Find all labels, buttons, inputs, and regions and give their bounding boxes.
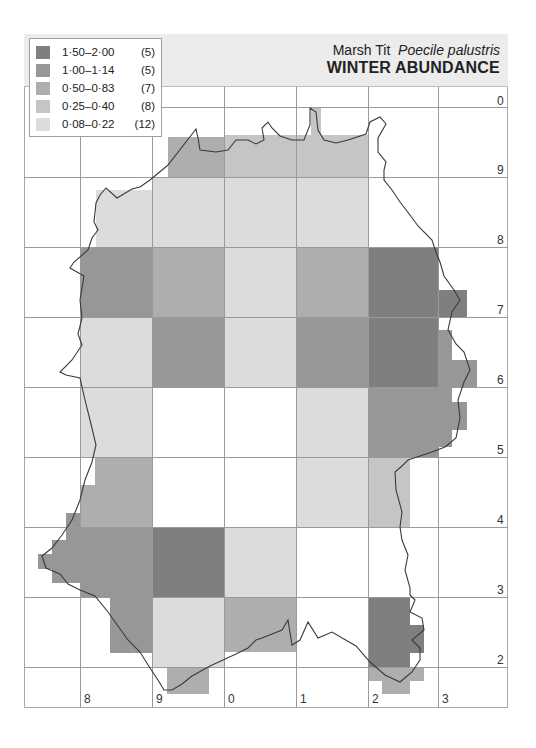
row-label: 6 bbox=[497, 373, 504, 387]
legend-count: (7) bbox=[131, 82, 155, 94]
legend-item: 0·50–0·83 (7) bbox=[36, 79, 155, 97]
legend-range: 0·50–0·83 bbox=[62, 82, 131, 94]
map-subtitle: WINTER ABUNDANCE bbox=[327, 59, 500, 77]
row-label: 0 bbox=[497, 94, 504, 108]
legend-swatch bbox=[36, 46, 50, 59]
legend-count: (5) bbox=[131, 46, 155, 58]
scientific-name: Poecile palustris bbox=[398, 42, 500, 58]
legend-range: 1·50–2·00 bbox=[62, 46, 131, 58]
legend-count: (8) bbox=[131, 100, 155, 112]
row-label: 5 bbox=[497, 443, 504, 457]
species-name: Marsh Tit Poecile palustris bbox=[327, 42, 500, 58]
col-label: 2 bbox=[372, 692, 379, 706]
row-label: 9 bbox=[497, 163, 504, 177]
legend-item: 0·25–0·40 (8) bbox=[36, 97, 155, 115]
col-label: 9 bbox=[156, 692, 163, 706]
col-label: 8 bbox=[84, 692, 91, 706]
legend-item: 1·50–2·00 (5) bbox=[36, 43, 155, 61]
legend-range: 1·00–1·14 bbox=[62, 64, 131, 76]
row-label: 2 bbox=[497, 653, 504, 667]
col-label: 1 bbox=[300, 692, 307, 706]
legend-item: 0·08–0·22 (12) bbox=[36, 115, 155, 133]
common-name: Marsh Tit bbox=[333, 42, 391, 58]
legend-item: 1·00–1·14 (5) bbox=[36, 61, 155, 79]
legend-range: 0·25–0·40 bbox=[62, 100, 131, 112]
legend-swatch bbox=[36, 82, 50, 95]
row-label: 8 bbox=[497, 233, 504, 247]
legend-swatch bbox=[36, 64, 50, 77]
map-title: Marsh Tit Poecile palustris WINTER ABUND… bbox=[327, 42, 500, 77]
row-label: 7 bbox=[497, 303, 504, 317]
legend: 1·50–2·00 (5) 1·00–1·14 (5) 0·50–0·83 (7… bbox=[29, 38, 162, 137]
legend-swatch bbox=[36, 100, 50, 113]
legend-range: 0·08–0·22 bbox=[62, 118, 131, 130]
legend-swatch bbox=[36, 118, 50, 131]
legend-count: (12) bbox=[131, 118, 155, 130]
legend-count: (5) bbox=[131, 64, 155, 76]
col-label: 3 bbox=[442, 692, 449, 706]
row-label: 4 bbox=[497, 513, 504, 527]
col-label: 0 bbox=[228, 692, 235, 706]
row-label: 3 bbox=[497, 583, 504, 597]
